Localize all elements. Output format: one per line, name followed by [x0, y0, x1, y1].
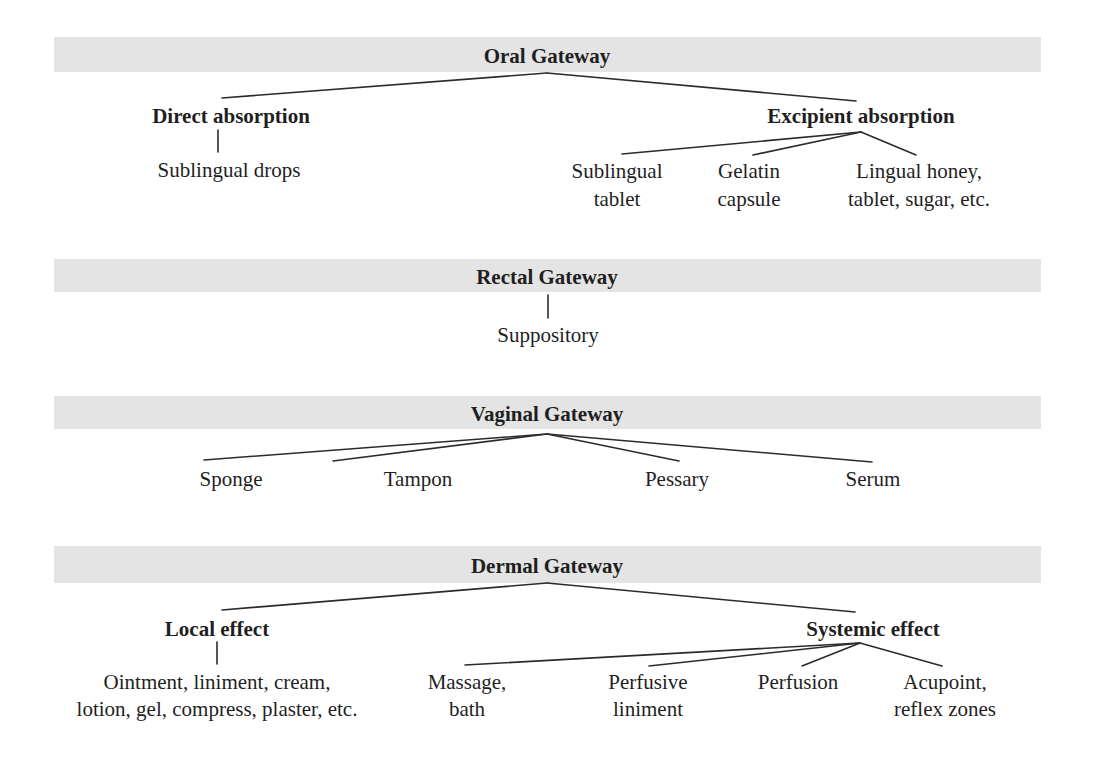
lingual-honey-line1: Lingual honey,: [856, 159, 982, 183]
pessary-label: Pessary: [645, 467, 710, 491]
perfusion-label: Perfusion: [758, 670, 839, 694]
acupoint-line2: reflex zones: [894, 697, 996, 721]
systemic-effect-label: Systemic effect: [806, 617, 940, 641]
connector-systemic-massage: [465, 643, 860, 665]
connector-dermal-systemic: [547, 583, 855, 612]
excipient-absorption-label: Excipient absorption: [767, 104, 955, 128]
perfusive-liniment-line1: Perfusive: [608, 670, 687, 694]
dermal-gateway-section: Dermal Gateway Local effect Ointment, li…: [54, 546, 1041, 721]
massage-line1: Massage,: [428, 670, 507, 694]
oral-gateway-section: Oral Gateway Direct absorption Sublingua…: [54, 37, 1041, 211]
oral-gateway-title: Oral Gateway: [484, 44, 611, 68]
connector-excipient-honey: [861, 132, 916, 155]
serum-label: Serum: [846, 467, 901, 491]
connector-excipient-capsule: [753, 132, 861, 155]
lingual-honey-line2: tablet, sugar, etc.: [848, 187, 990, 211]
connector-systemic-perfusive: [649, 643, 860, 666]
gelatin-capsule-line1: Gelatin: [718, 159, 780, 183]
connector-vaginal-pessary: [547, 434, 679, 461]
perfusive-liniment-line2: liniment: [613, 697, 683, 721]
connector-vaginal-serum: [547, 434, 872, 462]
rectal-gateway-title: Rectal Gateway: [476, 265, 618, 289]
rectal-gateway-section: Rectal Gateway Suppository: [54, 259, 1041, 347]
connector-dermal-local: [222, 583, 547, 610]
sponge-label: Sponge: [200, 467, 263, 491]
local-effect-label: Local effect: [165, 617, 269, 641]
suppository-label: Suppository: [497, 323, 599, 347]
ointment-line1: Ointment, liniment, cream,: [104, 670, 331, 694]
gelatin-capsule-line2: capsule: [718, 187, 781, 211]
dermal-gateway-title: Dermal Gateway: [471, 554, 624, 578]
vaginal-gateway-title: Vaginal Gateway: [471, 402, 624, 426]
connector-systemic-acupoint: [860, 643, 942, 666]
sublingual-tablet-line1: Sublingual: [571, 159, 662, 183]
acupoint-line1: Acupoint,: [903, 670, 986, 694]
ointment-line2: lotion, gel, compress, plaster, etc.: [77, 697, 358, 721]
connector-oral-excipient: [547, 73, 856, 101]
tampon-label: Tampon: [384, 467, 453, 491]
direct-absorption-label: Direct absorption: [152, 104, 310, 128]
sublingual-tablet-line2: tablet: [594, 187, 641, 211]
vaginal-gateway-section: Vaginal Gateway Sponge Tampon Pessary Se…: [54, 396, 1041, 491]
connector-oral-direct: [222, 73, 547, 98]
massage-line2: bath: [449, 697, 486, 721]
sublingual-drops-label: Sublingual drops: [158, 158, 301, 182]
connector-excipient-tablet: [622, 132, 861, 154]
administration-gateways-diagram: Oral Gateway Direct absorption Sublingua…: [0, 0, 1094, 764]
